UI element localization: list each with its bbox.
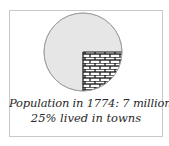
pie-slice-towns bbox=[83, 52, 123, 92]
chart-subtitle: 25% lived in towns bbox=[9, 111, 163, 126]
chart-title: Population in 1774: 7 million bbox=[9, 96, 163, 111]
